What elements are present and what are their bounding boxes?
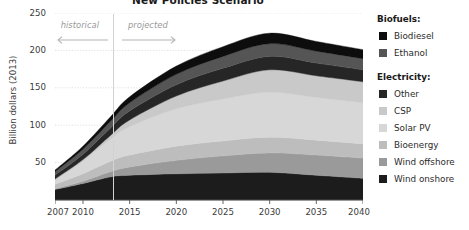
legend-item-wind-offshore[interactable]: Wind offshore [377, 153, 469, 170]
legend-item-label: Bioenergy [394, 140, 439, 150]
historical-arrow-wrap [56, 30, 110, 49]
legend-group-biofuels-title: Biofuels: [377, 14, 469, 24]
y-axis-ticks: 25020015010050 [16, 0, 46, 230]
x-axis-tick-label: 2010 [72, 207, 94, 217]
x-axis-tick-label: 2030 [259, 207, 281, 217]
page-title: New Policies Scenario [118, 0, 278, 6]
legend-item-solar-pv[interactable]: Solar PV [377, 119, 469, 136]
legend-swatch-icon [379, 175, 387, 183]
chart-root: New Policies Scenario Billion dollars (2… [0, 0, 469, 230]
x-axis-tick-label: 2007 [47, 207, 69, 217]
legend-swatch-icon [379, 124, 387, 132]
legend-item-label: CSP [394, 106, 411, 116]
legend-item-label: Biodiesel [394, 31, 434, 41]
legend-item-csp[interactable]: CSP [377, 102, 469, 119]
legend-item-label: Wind onshore [394, 174, 454, 184]
legend-swatch-icon [379, 107, 387, 115]
projected-label: projected [128, 20, 168, 30]
historical-label: historical [61, 20, 99, 30]
projected-arrow-wrap [120, 30, 177, 49]
y-axis-tick-label: 100 [20, 121, 46, 130]
legend-swatch-icon [379, 49, 387, 57]
legend-item-label: Other [394, 89, 419, 99]
legend-item-label: Ethanol [394, 48, 427, 58]
legend-swatch-icon [379, 32, 387, 40]
legend-item-label: Solar PV [394, 123, 431, 133]
x-axis-tick-label: 2015 [119, 207, 141, 217]
legend-item-other[interactable]: Other [377, 85, 469, 102]
x-axis-tick-label: 2040 [348, 207, 370, 217]
chart-legend: Biofuels: BiodieselEthanol Electricity: … [377, 14, 469, 187]
y-axis-tick-label: 200 [20, 46, 46, 55]
legend-group-electricity: OtherCSPSolar PVBioenergyWind offshoreWi… [377, 85, 469, 187]
historical-projected-divider [113, 14, 114, 200]
legend-item-ethanol[interactable]: Ethanol [377, 44, 469, 61]
x-axis-tick-label: 2025 [212, 207, 234, 217]
historical-arrow [56, 35, 110, 45]
x-axis-tick-label: 2035 [305, 207, 327, 217]
legend-swatch-icon [379, 158, 387, 166]
legend-item-bioenergy[interactable]: Bioenergy [377, 136, 469, 153]
legend-item-wind-onshore[interactable]: Wind onshore [377, 170, 469, 187]
legend-item-label: Wind offshore [394, 157, 455, 167]
y-axis-tick-label: 50 [20, 158, 46, 167]
y-axis-tick-label: 150 [20, 83, 46, 92]
x-axis-tick-label: 2020 [165, 207, 187, 217]
legend-group-biofuels: BiodieselEthanol [377, 27, 469, 61]
legend-group-electricity-title: Electricity: [377, 72, 469, 82]
projected-arrow [120, 35, 177, 45]
legend-swatch-icon [379, 141, 387, 149]
legend-item-biodiesel[interactable]: Biodiesel [377, 27, 469, 44]
legend-swatch-icon [379, 90, 387, 98]
y-axis-tick-label: 250 [20, 9, 46, 18]
